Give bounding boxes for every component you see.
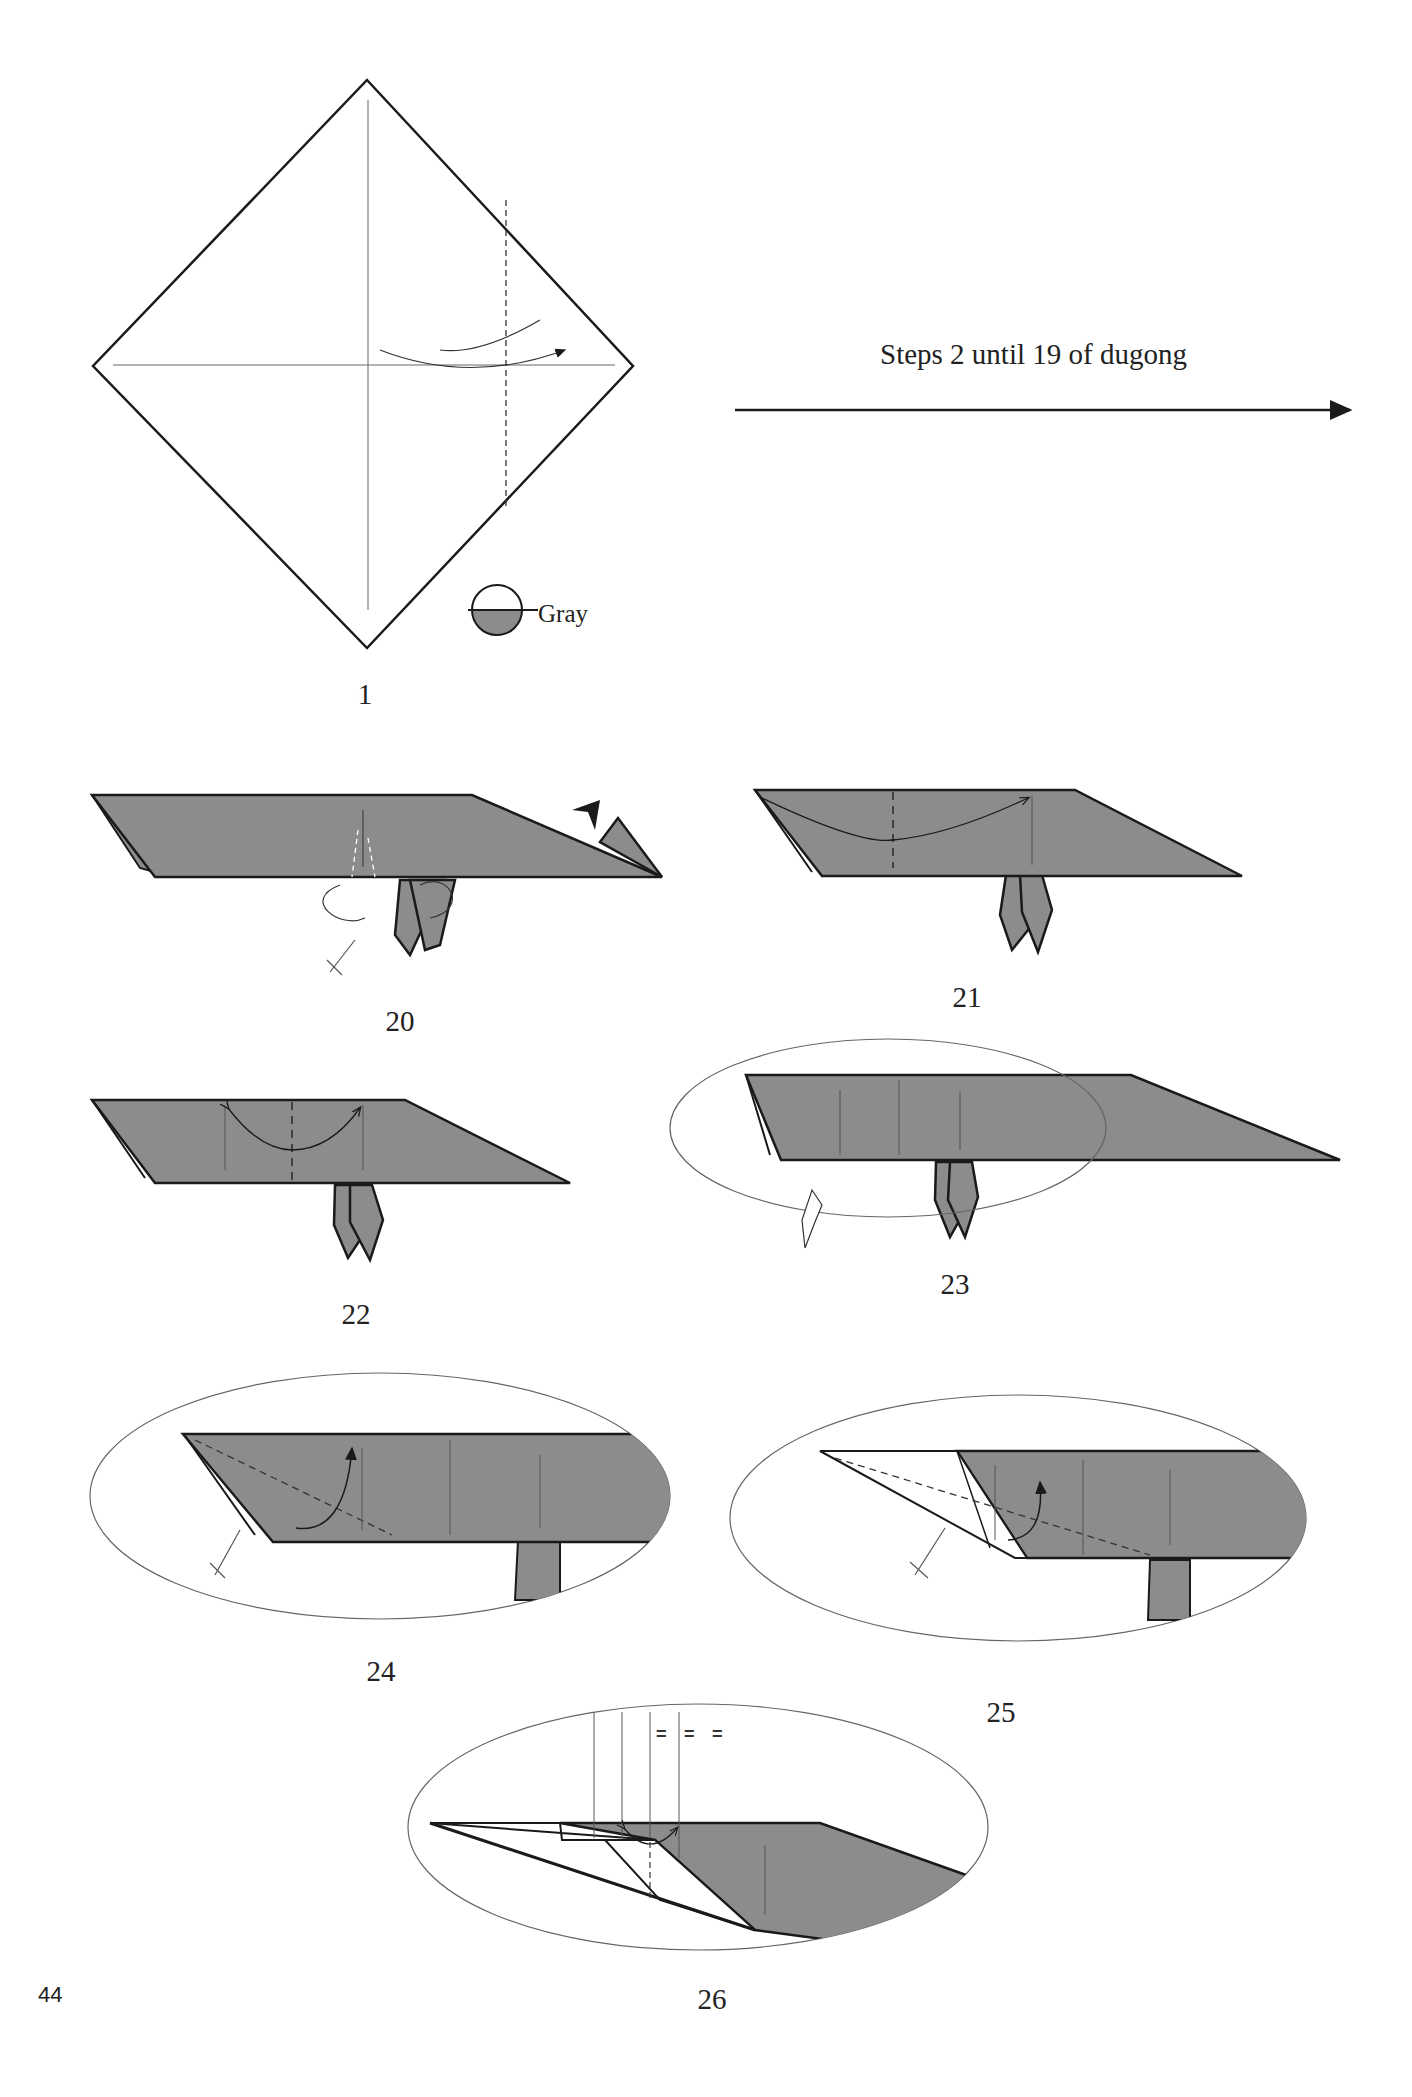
equal-mark: = [684, 1724, 695, 1745]
step-number-23: 23 [915, 1270, 995, 1299]
equal-mark: = [656, 1724, 667, 1745]
step-1-diagram [93, 80, 633, 648]
step-20-diagram [92, 795, 662, 975]
step-number-1: 1 [325, 680, 405, 709]
step-number-21: 21 [927, 983, 1007, 1012]
instruction-text: Steps 2 until 19 of dugong [880, 338, 1187, 371]
gray-side-legend-icon [468, 585, 538, 635]
step-number-20: 20 [360, 1007, 440, 1036]
step-25-diagram [730, 1395, 1330, 1641]
step-21-diagram [755, 790, 1242, 952]
equal-mark: = [712, 1724, 723, 1745]
page-number: 44 [38, 1982, 62, 2008]
step-22-diagram [92, 1100, 570, 1260]
step-number-24: 24 [341, 1657, 421, 1686]
step-24-diagram [90, 1373, 700, 1619]
step-number-25: 25 [961, 1698, 1041, 1727]
step-number-22: 22 [316, 1300, 396, 1329]
gray-legend-label: Gray [538, 600, 588, 628]
step-23-diagram [670, 1039, 1340, 1248]
diagram-canvas [0, 0, 1412, 2097]
origami-instruction-page: Steps 2 until 19 of dugong Gray = = = 1 … [0, 0, 1412, 2097]
step-26-diagram [408, 1704, 988, 1960]
step-number-26: 26 [672, 1985, 752, 2014]
